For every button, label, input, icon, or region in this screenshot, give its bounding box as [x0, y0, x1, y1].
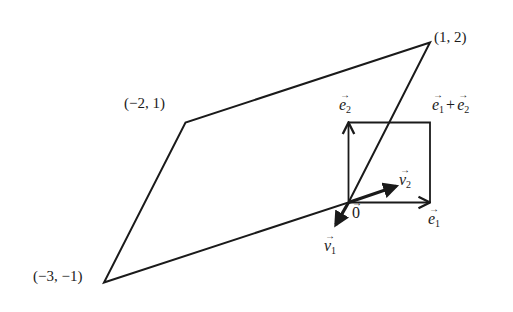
- label-v1: →v1: [324, 238, 336, 256]
- label-origin: →0: [352, 205, 360, 221]
- arrow-accent: →: [432, 90, 444, 100]
- subscript-2: 2: [464, 104, 469, 115]
- plus-sign: +: [444, 96, 457, 113]
- vector-e2-symbol: →e2: [339, 97, 351, 115]
- diagram-svg: [0, 0, 513, 312]
- vertex-label-neg2-1: (−2, 1): [124, 96, 165, 111]
- vertex-label-neg3-neg1: (−3, −1): [33, 269, 82, 284]
- arrow-accent: →: [457, 90, 469, 100]
- vertex-label-1-2: (1, 2): [434, 30, 467, 45]
- arrow-accent: →: [339, 90, 351, 100]
- arrow-accent: →: [324, 231, 336, 241]
- vector-e1-symbol: →e1: [432, 97, 444, 115]
- arrow-accent: →: [352, 198, 360, 208]
- vector-zero-symbol: →0: [352, 205, 360, 221]
- diagram-canvas: (1, 2) (−2, 1) (−3, −1) →e2 →e1+→e2 →v2 …: [0, 0, 513, 312]
- label-e2: →e2: [339, 97, 351, 115]
- label-e1-plus-e2: →e1+→e2: [432, 97, 469, 115]
- parallelogram: [104, 43, 430, 283]
- subscript-2: 2: [346, 104, 351, 115]
- arrow-accent: →: [399, 165, 411, 175]
- subscript-1: 1: [331, 245, 336, 256]
- vector-e2-symbol: →e2: [457, 97, 469, 115]
- unit-square-top-right: [349, 123, 431, 203]
- subscript-2: 2: [406, 179, 411, 190]
- subscript-1: 1: [439, 104, 444, 115]
- vector-v2-symbol: →v2: [399, 172, 411, 190]
- label-v2: →v2: [399, 172, 411, 190]
- label-e1: →e1: [428, 211, 440, 229]
- vector-v1-symbol: →v1: [324, 238, 336, 256]
- arrow-accent: →: [428, 204, 440, 214]
- vector-e1-symbol: →e1: [428, 211, 440, 229]
- subscript-1: 1: [435, 218, 440, 229]
